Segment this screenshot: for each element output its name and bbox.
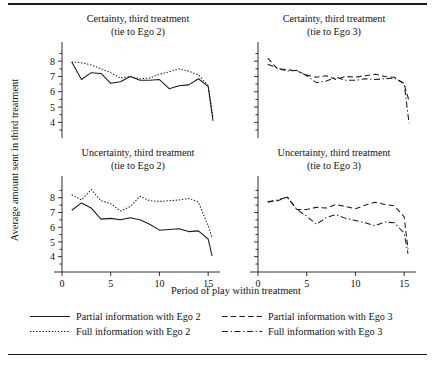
panel-title-bottom-right: Uncertainty, third treatment [278,147,391,158]
panel-top-left: Certainty, third treatment(tie to Ego 2)… [50,13,213,138]
series-top-left-solid [72,62,213,121]
legend-label-1: Partial information with Ego 3 [268,311,393,322]
panel-bottom-left: Uncertainty, third treatment(tie to Ego … [50,147,220,289]
x-tick-label-bottom-left-10: 10 [154,278,164,289]
series-bottom-right-dashdot [268,197,408,254]
series-top-right-dashed [268,58,409,101]
panel-subtitle-top-left: (tie to Ego 2) [111,26,165,38]
panel-subtitle-bottom-left: (tie to Ego 2) [111,160,165,172]
panel-top-right: Certainty, third treatment(tie to Ego 3) [254,13,409,138]
panel-subtitle-top-right: (tie to Ego 3) [307,26,361,38]
legend-label-3: Full information with Ego 3 [268,326,382,337]
y-tick-label-4: 4 [50,251,55,262]
x-tick-label-bottom-right-5: 5 [304,278,309,289]
y-tick-label-7: 7 [50,207,55,218]
series-top-left-dotted [72,62,213,117]
y-tick-label-4: 4 [50,117,55,128]
y-tick-label-5: 5 [50,237,55,248]
series-bottom-right-dashed [268,197,408,249]
panel-title-bottom-left: Uncertainty, third treatment [82,147,195,158]
series-bottom-left-solid [72,203,212,256]
y-tick-label-7: 7 [50,71,55,82]
x-tick-label-bottom-left-0: 0 [60,278,65,289]
panel-subtitle-bottom-right: (tie to Ego 3) [307,160,361,172]
legend-label-0: Partial information with Ego 2 [76,311,201,322]
x-tick-label-bottom-left-5: 5 [108,278,113,289]
y-axis-title: Average amount sent in third treatment [9,79,20,241]
x-tick-label-bottom-right-10: 10 [350,278,360,289]
legend-label-2: Full information with Ego 2 [76,326,190,337]
legend: Partial information with Ego 2Partial in… [30,311,393,337]
y-tick-label-5: 5 [50,102,55,113]
panel-title-top-right: Certainty, third treatment [283,13,386,24]
y-tick-label-6: 6 [50,86,55,97]
figure-container: Certainty, third treatment(tie to Ego 2)… [0,0,435,365]
panel-bottom-right: Uncertainty, third treatment(tie to Ego … [250,147,416,289]
x-tick-label-bottom-right-15: 15 [399,278,409,289]
chart-svg: Certainty, third treatment(tie to Ego 2)… [0,0,435,365]
series-top-right-dashdot [268,64,409,123]
y-tick-label-6: 6 [50,222,55,233]
y-tick-label-8: 8 [50,56,55,67]
y-tick-label-8: 8 [50,192,55,203]
panel-title-top-left: Certainty, third treatment [87,13,190,24]
x-axis-title: Period of play within treatment [171,285,301,296]
